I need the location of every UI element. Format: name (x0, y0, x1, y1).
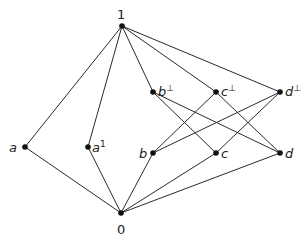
label-sup-dperp: ⊥ (293, 83, 301, 93)
label-a1: a1 (92, 139, 106, 155)
node-a (22, 144, 28, 150)
labels-group: 1aa1b⊥c⊥d⊥bcd0 (9, 7, 301, 237)
node-a1 (85, 144, 91, 150)
edges-group (25, 26, 280, 213)
node-c (213, 150, 219, 156)
edge-top-bperp (122, 26, 153, 92)
label-bperp: b⊥ (158, 83, 174, 99)
hasse-diagram: 1aa1b⊥c⊥d⊥bcd0 (0, 0, 308, 242)
node-dperp (277, 89, 283, 95)
label-d: d (285, 146, 294, 161)
label-sup-bperp: ⊥ (166, 83, 174, 93)
label-sup-a1: 1 (100, 139, 106, 149)
edge-a-bottom (25, 147, 121, 213)
node-bottom (118, 210, 124, 216)
nodes-group (22, 23, 283, 216)
edge-b-bottom (121, 153, 153, 213)
label-bottom: 0 (117, 222, 125, 237)
node-b (150, 150, 156, 156)
label-sup-cperp: ⊥ (228, 83, 236, 93)
label-dperp: d⊥ (285, 83, 301, 99)
label-top: 1 (117, 7, 125, 22)
edge-top-a (25, 26, 122, 147)
label-b: b (139, 146, 147, 161)
node-cperp (213, 89, 219, 95)
edge-top-a1 (88, 26, 122, 147)
edge-a1-bottom (88, 147, 121, 213)
node-top (119, 23, 125, 29)
label-c: c (221, 146, 228, 161)
label-cperp: c⊥ (221, 83, 236, 99)
edge-d-bottom (121, 153, 280, 213)
label-a: a (9, 140, 17, 155)
node-bperp (150, 89, 156, 95)
node-d (277, 150, 283, 156)
edge-top-dperp (122, 26, 280, 92)
